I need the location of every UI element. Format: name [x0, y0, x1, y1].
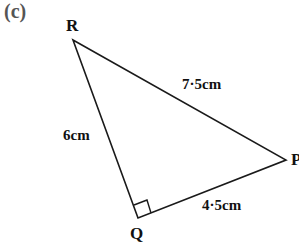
side-rp-length: 7·5cm: [182, 76, 221, 93]
right-angle-marker: [134, 200, 151, 213]
triangle-diagram: [0, 0, 299, 247]
side-qp-length: 4·5cm: [202, 197, 241, 214]
triangle-pqr: [73, 40, 286, 218]
side-rq-length: 6cm: [63, 127, 90, 144]
vertex-p-label: P: [291, 150, 299, 170]
vertex-r-label: R: [66, 16, 78, 36]
vertex-q-label: Q: [130, 224, 143, 244]
part-label: (c): [4, 0, 26, 23]
